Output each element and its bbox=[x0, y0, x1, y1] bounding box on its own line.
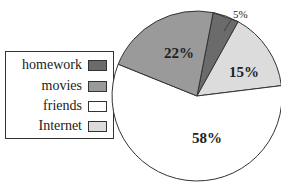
label-movies: 22% bbox=[164, 45, 194, 61]
label-friends: 58% bbox=[192, 130, 222, 146]
label-internet: 15% bbox=[229, 64, 259, 80]
label-homework: 5% bbox=[233, 8, 248, 20]
pie-chart: 5% 15% 58% 22% bbox=[0, 0, 281, 188]
